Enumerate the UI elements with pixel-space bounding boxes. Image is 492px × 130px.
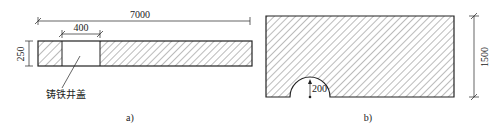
dim-label-250: 250 <box>15 47 26 62</box>
dimension-cover-width: 400 <box>59 22 103 38</box>
cover-label: 铸铁井盖 <box>46 88 86 100</box>
figure-a: 7000 400 250 铸铁井盖 a) <box>15 9 252 124</box>
slab-right-section <box>100 41 252 66</box>
dimension-total-length: 7000 <box>35 9 250 25</box>
dim-label-200: 200 <box>312 83 327 94</box>
figure-b: 200 1500 b) <box>266 13 490 124</box>
dim-label-1500: 1500 <box>479 47 490 67</box>
slab-left-section <box>38 41 62 66</box>
caption-b: b) <box>364 112 372 124</box>
dim-label-7000: 7000 <box>130 9 150 20</box>
drawing-canvas: 7000 400 250 铸铁井盖 a) <box>0 0 492 130</box>
dimension-height: 1500 <box>469 13 490 100</box>
dim-label-400: 400 <box>74 22 89 33</box>
caption-a: a) <box>126 112 134 124</box>
leader-line <box>62 56 80 88</box>
dimension-thickness: 250 <box>15 41 33 66</box>
